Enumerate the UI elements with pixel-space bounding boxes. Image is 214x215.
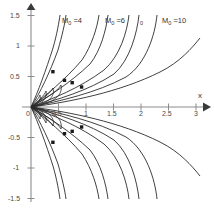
curve-m4-inner-mirror [31, 107, 60, 199]
curve-annotation-m10: M0 =10 [162, 17, 186, 25]
curve-annotation-m4: M0 =4 [62, 17, 82, 25]
curve-m8-inner-mirror [31, 107, 129, 199]
x-tick-label-1: 1 [84, 110, 88, 117]
x-tick-label-3: 3 [194, 110, 198, 117]
annotation-m8-subscript: 0 [140, 20, 143, 26]
x-tick-label-2: 2 [139, 110, 143, 117]
curve-m10-inner-mirror [31, 107, 157, 199]
data-point-marker [71, 81, 74, 84]
annotation-m6-subscript: 0 [111, 20, 114, 26]
annotation-m10-subscript: 0 [168, 20, 171, 26]
y-tick-label-neg1: -1 [13, 164, 19, 171]
annotation-m6-value: =6 [114, 16, 125, 25]
characteristic-curves-lower [31, 107, 200, 199]
y-tick-label-neg1_5: -1.5 [8, 195, 20, 202]
y-tick-label-1: 1 [16, 42, 20, 49]
x-axis-label: x [198, 92, 202, 100]
y-axis-arrow-icon [27, 3, 36, 10]
chart-figure: 0 0.5 1 1.5 2 2.5 3 1.5 1 0.5 -0.5 -1 -1… [0, 0, 214, 215]
x-tick-label-0: 0 [26, 110, 30, 117]
annotation-m10-value: =10 [171, 16, 186, 25]
data-point-marker [51, 70, 54, 73]
x-axis-arrow-icon [203, 103, 211, 112]
y-tick-label-1_5: 1.5 [10, 12, 20, 19]
data-point-marker [51, 141, 54, 144]
annotation-m4-value: =4 [71, 16, 82, 25]
curve-annotation-m6: M0 =6 [105, 17, 125, 25]
x-tick-label-1_5: 1.5 [107, 110, 117, 117]
y-tick-label-neg0_5: -0.5 [8, 134, 20, 141]
curve-m4-inner [31, 15, 60, 107]
data-point-marker [63, 79, 66, 82]
characteristic-curves-upper [31, 15, 200, 107]
data-point-marker [80, 125, 83, 128]
x-tick-label-2_5: 2.5 [162, 110, 172, 117]
annotation-m4-subscript: 0 [68, 20, 71, 26]
curve-m8-outer [31, 15, 139, 107]
y-tick-label-0_5: 0.5 [10, 73, 20, 80]
x-tick-label-0_5: 0.5 [52, 110, 62, 117]
plot-canvas [0, 0, 214, 215]
curve-m10-inner [31, 15, 157, 107]
curve-m8-outer-mirror [31, 107, 139, 199]
curve-m8-inner [31, 15, 129, 107]
curve-annotation-m8: 0 [140, 17, 143, 25]
data-point-marker [71, 130, 74, 133]
data-point-marker [63, 132, 66, 135]
data-point-marker [80, 85, 83, 88]
